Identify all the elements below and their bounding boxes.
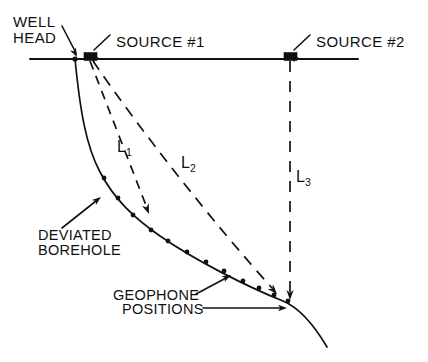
ray-label-l3: L3 [296,168,311,188]
source-1-label: SOURCE #1 [116,33,205,50]
well-head-leader [62,26,76,53]
well-head-label-line2: HEAD [13,29,56,46]
well-head-label-line1: WELL [13,13,55,30]
geophone-dot [257,286,262,291]
geophone-leader-upper [196,278,226,294]
geophone-dot [185,250,190,255]
geophone-dot [222,269,227,274]
geophone-dot [166,239,171,244]
geophone-dot [272,293,277,298]
geophone-dot [286,299,291,304]
geophone-positions-group [102,176,291,304]
geophone-dot [204,260,209,265]
geophone-dot [102,176,107,181]
seismic-survey-diagram: WELL HEAD SOURCE #1 SOURCE #2 DEVIATED B… [0,0,428,362]
geophone-dot [131,213,136,218]
ray-l1 [90,61,147,208]
deviated-borehole-leader [62,201,96,228]
ray-labels-group: L1L2L3 [117,138,311,188]
diagram-canvas: WELL HEAD SOURCE #1 SOURCE #2 DEVIATED B… [0,0,428,362]
source-2-leader [294,35,310,50]
ray-label-l2: L2 [181,154,196,174]
ray-paths-group [90,61,294,300]
deviated-borehole-label-line2: BOREHOLE [38,242,121,258]
source-2-label: SOURCE #2 [316,33,405,50]
deviated-borehole-label-line1: DEVIATED [38,227,112,243]
geophone-positions-label-line2: POSITIONS [122,301,204,317]
geophone-dot [116,196,121,201]
ray-label-l1: L1 [117,138,132,158]
arrowhead [142,203,152,215]
geophone-dot [149,228,154,233]
source-1-leader [94,35,110,50]
geophone-dot [241,279,246,284]
